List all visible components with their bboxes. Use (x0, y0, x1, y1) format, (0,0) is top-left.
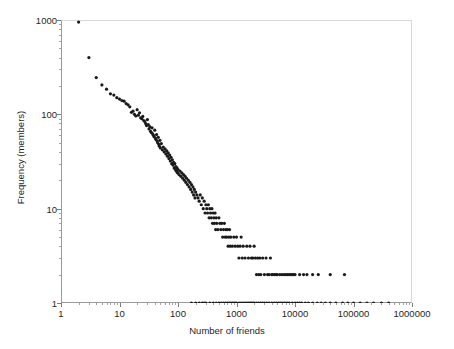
x-tick-minor (371, 303, 372, 305)
x-tick-minor (213, 303, 214, 305)
x-tick-minor (277, 303, 278, 305)
chart-figure: 1101001000100001000001000000 1101001000 … (0, 0, 454, 349)
y-tick-minor (59, 129, 61, 130)
x-tick-minor (117, 303, 118, 305)
x-tick-minor (389, 303, 390, 305)
y-tick-minor (59, 35, 61, 36)
x-tick-minor (406, 303, 407, 305)
y-tick-minor (59, 119, 61, 120)
y-tick-label: 1000 (36, 15, 57, 26)
x-tick (61, 303, 62, 307)
y-tick-label: 10 (46, 203, 57, 214)
x-tick-minor (165, 303, 166, 305)
x-tick-minor (344, 303, 345, 305)
x-tick-minor (147, 303, 148, 305)
y-tick-minor (59, 213, 61, 214)
y-tick-label: 1 (52, 298, 57, 309)
x-tick-label: 100 (170, 308, 186, 320)
x-tick-minor (330, 303, 331, 305)
plot-area (61, 20, 412, 303)
y-tick-minor (59, 152, 61, 153)
x-tick-minor (206, 303, 207, 305)
x-tick-label: 100000 (338, 308, 370, 320)
y-tick-minor (59, 143, 61, 144)
x-tick-minor (231, 303, 232, 305)
y-tick (57, 20, 61, 21)
x-tick-minor (272, 303, 273, 305)
y-tick-minor (59, 29, 61, 30)
x-tick-minor (114, 303, 115, 305)
x-tick (120, 303, 121, 307)
y-tick-minor (59, 58, 61, 59)
x-tick-minor (155, 303, 156, 305)
x-tick-minor (96, 303, 97, 305)
x-tick-minor (172, 303, 173, 305)
x-tick-minor (196, 303, 197, 305)
y-tick-minor (59, 230, 61, 231)
y-tick-minor (59, 69, 61, 70)
x-tick-minor (282, 303, 283, 305)
x-tick-minor (409, 303, 410, 305)
x-tick-minor (110, 303, 111, 305)
y-tick-minor (59, 223, 61, 224)
y-tick-minor (59, 180, 61, 181)
x-tick-minor (394, 303, 395, 305)
y-tick (57, 114, 61, 115)
y-tick-minor (59, 135, 61, 136)
x-tick-minor (234, 303, 235, 305)
x-tick-minor (160, 303, 161, 305)
y-tick-label: 100 (41, 109, 57, 120)
y-tick-minor (59, 123, 61, 124)
x-tick-minor (224, 303, 225, 305)
y-tick-minor (59, 218, 61, 219)
x-tick-minor (289, 303, 290, 305)
x-tick (295, 303, 296, 307)
y-tick-minor (59, 237, 61, 238)
x-axis-title: Number of friends (0, 325, 454, 336)
x-tick (354, 303, 355, 307)
y-tick-minor (59, 86, 61, 87)
y-tick-minor (59, 41, 61, 42)
x-tick-minor (102, 303, 103, 305)
x-tick-label: 10 (114, 308, 125, 320)
x-tick-minor (137, 303, 138, 305)
x-tick-label: 10000 (282, 308, 308, 320)
y-axis-title: Frequency (members) (15, 78, 26, 238)
x-tick-minor (381, 303, 382, 305)
y-tick-minor (59, 24, 61, 25)
x-tick (237, 303, 238, 307)
x-tick (412, 303, 413, 307)
x-tick-minor (399, 303, 400, 305)
y-tick-minor (59, 246, 61, 247)
x-tick-minor (323, 303, 324, 305)
y-tick (57, 209, 61, 210)
x-tick-minor (227, 303, 228, 305)
x-tick-minor (313, 303, 314, 305)
x-tick-minor (175, 303, 176, 305)
x-tick-minor (107, 303, 108, 305)
y-tick-minor (59, 48, 61, 49)
x-tick-label: 1000000 (394, 308, 431, 320)
y-tick-minor (59, 275, 61, 276)
x-tick-minor (79, 303, 80, 305)
y-tick (57, 303, 61, 304)
x-tick-label: 1000 (226, 308, 247, 320)
x-tick-minor (286, 303, 287, 305)
y-tick-minor (59, 164, 61, 165)
x-tick-minor (348, 303, 349, 305)
x-tick-minor (219, 303, 220, 305)
x-tick-minor (169, 303, 170, 305)
x-tick-minor (254, 303, 255, 305)
scatter-points-canvas (61, 20, 412, 303)
y-tick-minor (59, 258, 61, 259)
x-tick (178, 303, 179, 307)
x-tick-minor (292, 303, 293, 305)
x-tick-minor (403, 303, 404, 305)
x-tick-minor (336, 303, 337, 305)
x-tick-minor (351, 303, 352, 305)
x-tick-minor (264, 303, 265, 305)
x-tick-minor (341, 303, 342, 305)
x-tick-label: 1 (58, 308, 63, 320)
x-tick-minor (89, 303, 90, 305)
